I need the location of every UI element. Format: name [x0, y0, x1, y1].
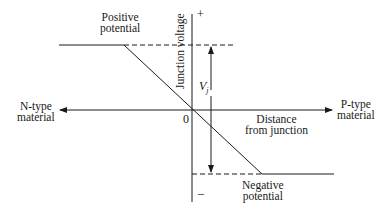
negative-potential-line2: potential [242, 191, 284, 202]
distance-label: Distance from junction [245, 114, 308, 136]
positive-potential-line2: potential [100, 23, 140, 34]
n-type-label: N-type material [17, 101, 55, 123]
origin-label: 0 [183, 112, 189, 127]
junction-voltage-label: Junction voltage [174, 13, 186, 89]
distance-line2: from junction [245, 125, 308, 136]
minus-sign: – [198, 186, 204, 201]
p-type-label: P-type material [337, 99, 375, 121]
positive-potential-label: Positive potential [100, 12, 140, 34]
junction-potential-diagram [0, 0, 389, 215]
vj-subscript: j [206, 86, 208, 95]
n-type-line2: material [17, 112, 55, 123]
negative-potential-label: Negative potential [242, 180, 284, 202]
plus-sign: + [197, 7, 204, 22]
vj-label: Vj [199, 79, 209, 95]
p-type-line2: material [337, 110, 375, 121]
